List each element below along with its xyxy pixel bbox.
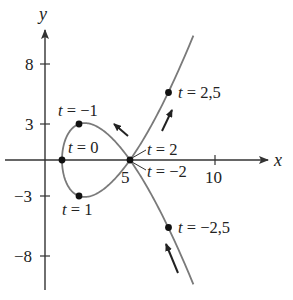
y-axis-label: y [37,4,47,24]
y-tick-label-neg8: −8 [14,247,32,266]
y-tick-label-neg3: −3 [14,187,32,206]
direction-arrow-lower [166,244,178,273]
label-t-neg2-5: t = −2,5 [178,218,230,237]
label-t-2: t = 2 [147,140,177,159]
direction-arrow-loop [114,124,128,136]
label-t-0: t = 0 [68,138,98,157]
label-t-2-5: t = 2,5 [178,83,221,102]
direction-arrow-upper [162,110,172,131]
point-t-1 [76,193,83,200]
point-t-0 [59,157,66,164]
label-t-1: t = 1 [62,200,92,219]
parametric-curve-plot: x y 8 3 −3 −8 5 10 t = −1 t = 0 t = 1 [0,0,293,300]
point-t-2-5 [165,89,172,96]
label-t-neg2: t = −2 [147,162,187,181]
label-t-neg1: t = −1 [58,101,98,120]
y-tick-label-8: 8 [25,55,34,74]
x-tick-label-10: 10 [205,168,222,187]
point-t-neg2-5 [165,224,172,231]
point-t-neg1 [76,121,83,128]
y-tick-label-3: 3 [25,115,34,134]
x-axis-label: x [273,150,282,170]
